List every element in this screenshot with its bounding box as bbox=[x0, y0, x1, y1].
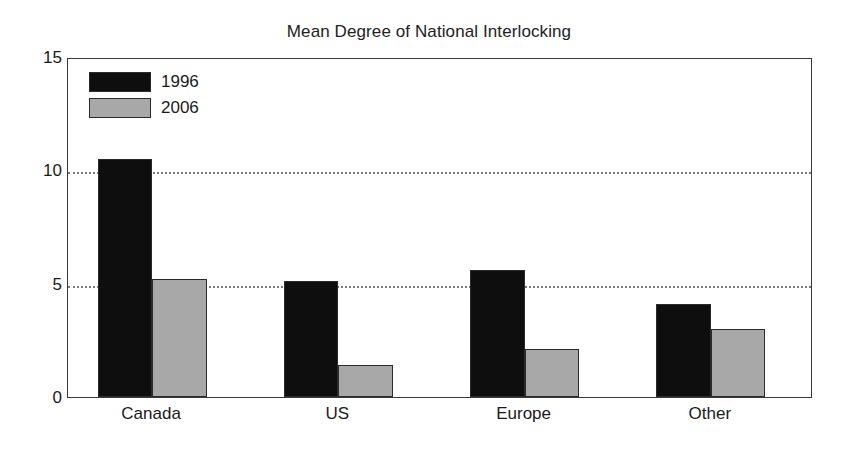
bar-europe-1996 bbox=[470, 270, 525, 397]
y-tick-label: 10 bbox=[4, 161, 62, 181]
x-tick-label-other: Other bbox=[689, 404, 732, 424]
y-tick-label: 5 bbox=[4, 275, 62, 295]
x-tick-label-europe: Europe bbox=[496, 404, 551, 424]
legend-item-2006: 2006 bbox=[89, 96, 239, 120]
legend-swatch-1996 bbox=[89, 72, 151, 92]
bar-other-1996 bbox=[656, 304, 711, 397]
y-tick-label: 0 bbox=[4, 388, 62, 408]
legend-item-1996: 1996 bbox=[89, 70, 239, 94]
x-tick-label-canada: Canada bbox=[121, 404, 181, 424]
chart-title: Mean Degree of National Interlocking bbox=[0, 22, 858, 42]
y-axis: 051015 bbox=[0, 58, 62, 398]
bar-canada-1996 bbox=[98, 159, 153, 397]
legend-label-2006: 2006 bbox=[161, 98, 199, 118]
bar-canada-2006 bbox=[152, 279, 207, 397]
bar-us-1996 bbox=[284, 281, 339, 397]
bar-other-2006 bbox=[711, 329, 766, 397]
y-tick-label: 15 bbox=[4, 48, 62, 68]
gridline-10 bbox=[68, 172, 811, 174]
bar-chart-figure: Mean Degree of National Interlocking 051… bbox=[0, 0, 858, 460]
x-tick-label-us: US bbox=[326, 404, 350, 424]
chart-legend: 19962006 bbox=[89, 70, 239, 122]
bar-us-2006 bbox=[338, 365, 393, 397]
legend-label-1996: 1996 bbox=[161, 72, 199, 92]
x-axis: CanadaUSEuropeOther bbox=[67, 404, 812, 434]
legend-swatch-2006 bbox=[89, 98, 151, 118]
bar-europe-2006 bbox=[525, 349, 580, 397]
